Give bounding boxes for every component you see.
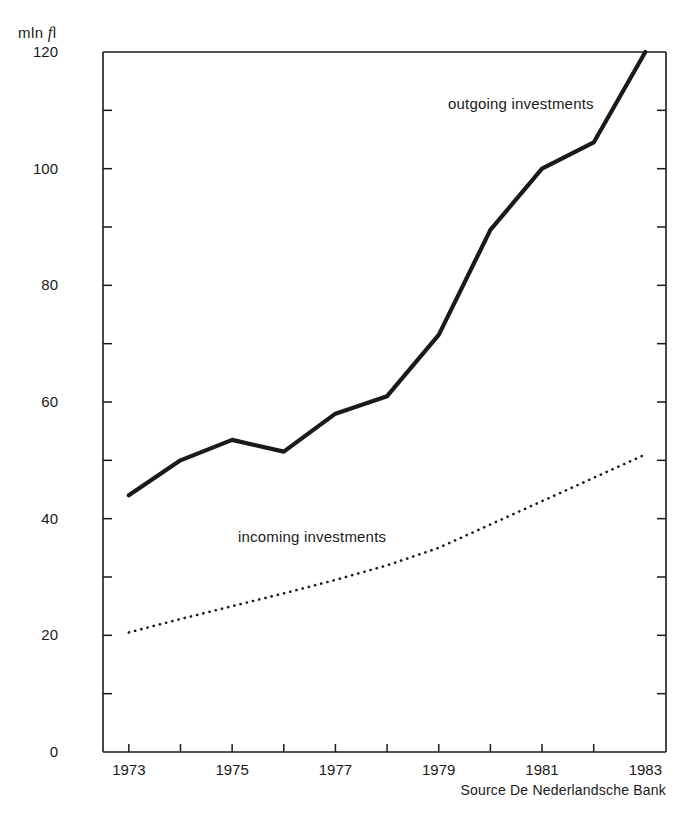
series-label-incoming-investments: incoming investments <box>238 528 386 545</box>
x-tick-label: 1975 <box>202 762 262 778</box>
series-label-outgoing-investments: outgoing investments <box>448 95 594 112</box>
x-tick-label: 1973 <box>99 762 159 778</box>
x-tick-label: 1977 <box>305 762 365 778</box>
x-tick-label: 1983 <box>615 762 675 778</box>
x-tick-label: 1979 <box>409 762 469 778</box>
chart-figure: mlnfl 020406080100120 197319751977197919… <box>0 0 688 823</box>
x-axis-tick-labels: 197319751977197919811983 <box>0 0 688 823</box>
source-note: Source De Nederlandsche Bank <box>460 782 666 798</box>
x-tick-label: 1981 <box>512 762 572 778</box>
